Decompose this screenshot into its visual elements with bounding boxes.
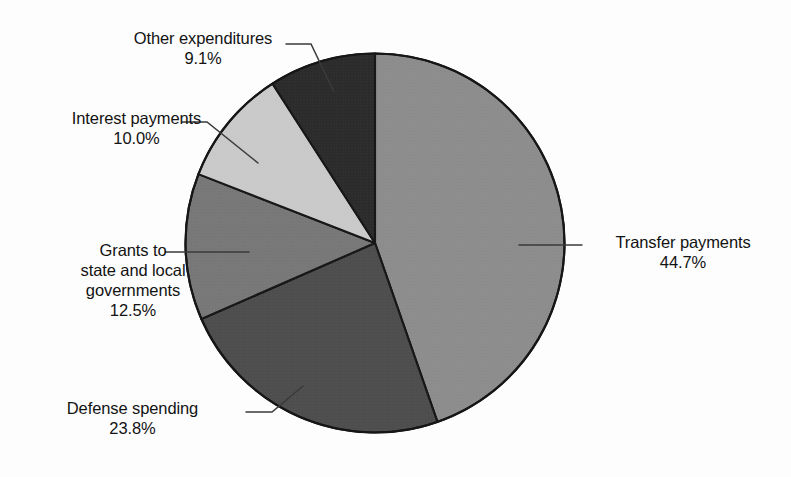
slice-value-transfer: 44.7% bbox=[588, 252, 778, 272]
slice-value-interest: 10.0% bbox=[44, 128, 229, 148]
slice-label-transfer-text: Transfer payments bbox=[615, 233, 750, 251]
slice-label-grants-line2: state and local bbox=[81, 261, 186, 279]
slice-label-transfer-payments: Transfer payments 44.7% bbox=[588, 232, 778, 272]
slice-value-grants: 12.5% bbox=[52, 300, 214, 320]
slice-label-grants: Grants to state and local governments 12… bbox=[52, 240, 214, 320]
slice-label-interest-text: Interest payments bbox=[72, 109, 201, 127]
slice-label-interest-payments: Interest payments 10.0% bbox=[44, 108, 229, 148]
slice-value-other: 9.1% bbox=[108, 48, 298, 68]
pie-chart-figure: Transfer payments 44.7%Defense spending … bbox=[0, 0, 791, 477]
slice-label-other-expenditures: Other expenditures 9.1% bbox=[108, 28, 298, 68]
pie-halftone-overlay bbox=[185, 54, 564, 433]
slice-label-grants-line1: Grants to bbox=[100, 241, 167, 259]
slice-label-defense-spending: Defense spending 23.8% bbox=[30, 398, 235, 438]
slice-value-defense: 23.8% bbox=[30, 418, 235, 438]
slice-label-grants-line3: governments bbox=[86, 281, 180, 299]
slice-label-other-text: Other expenditures bbox=[134, 29, 273, 47]
slice-label-defense-text: Defense spending bbox=[67, 399, 198, 417]
